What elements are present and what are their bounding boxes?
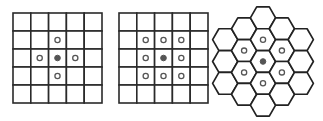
grid-cell: [84, 67, 102, 85]
neighbor-marker: [179, 37, 184, 42]
hex-cell: [288, 72, 313, 94]
grid-cell: [84, 31, 102, 49]
neighbor-marker: [179, 73, 184, 78]
neighbor-marker: [279, 48, 284, 53]
moore-neighborhood: [119, 13, 208, 103]
grid-cell: [84, 49, 102, 67]
grid-cell: [66, 13, 84, 31]
neighbor-marker: [143, 73, 148, 78]
grid-cell: [119, 67, 137, 85]
grid-cell: [172, 13, 190, 31]
grid-cell: [190, 49, 208, 67]
grid-cell: [31, 85, 49, 103]
grid-cell: [13, 13, 31, 31]
grid-cell: [66, 85, 84, 103]
neighbor-marker: [37, 55, 42, 60]
neighbor-marker: [55, 37, 60, 42]
center-cell-marker: [260, 59, 266, 65]
neighbor-marker: [161, 37, 166, 42]
grid-cell: [155, 85, 173, 103]
diagram-canvas: [0, 0, 323, 121]
grid-cell: [66, 31, 84, 49]
grid-cell: [49, 13, 67, 31]
grid-cell: [119, 31, 137, 49]
grid-cell: [31, 13, 49, 31]
grid-cell: [84, 85, 102, 103]
grid-cell: [119, 85, 137, 103]
neighbor-marker: [143, 37, 148, 42]
grid-cell: [172, 85, 190, 103]
grid-cell: [13, 85, 31, 103]
hex-cell: [288, 29, 313, 51]
grid-cell: [13, 67, 31, 85]
grid-cell: [119, 13, 137, 31]
neighbor-marker: [73, 55, 78, 60]
neighbor-marker: [179, 55, 184, 60]
grid-cell: [137, 85, 155, 103]
von-neumann-neighborhood: [13, 13, 102, 103]
grid-cell: [31, 31, 49, 49]
center-cell-marker: [55, 55, 61, 61]
neighbor-marker: [260, 81, 265, 86]
grid-cell: [137, 13, 155, 31]
grid-cell: [66, 67, 84, 85]
grid-cell: [84, 13, 102, 31]
neighbor-marker: [242, 48, 247, 53]
neighbor-marker: [260, 37, 265, 42]
grid-cell: [13, 31, 31, 49]
grid-cell: [190, 85, 208, 103]
grid-cell: [119, 49, 137, 67]
grid-cell: [155, 13, 173, 31]
grid-cell: [190, 13, 208, 31]
neighbor-marker: [161, 73, 166, 78]
hex-cell: [288, 51, 313, 73]
grid-cell: [31, 67, 49, 85]
neighbor-marker: [143, 55, 148, 60]
grid-cell: [13, 49, 31, 67]
neighbor-marker: [242, 70, 247, 75]
neighbor-marker: [55, 73, 60, 78]
grid-cell: [190, 31, 208, 49]
neighborhood-diagrams: [0, 0, 323, 121]
grid-cell: [49, 85, 67, 103]
neighbor-marker: [279, 70, 284, 75]
hexagonal-neighborhood: [213, 7, 314, 116]
grid-cell: [190, 67, 208, 85]
center-cell-marker: [161, 55, 167, 61]
